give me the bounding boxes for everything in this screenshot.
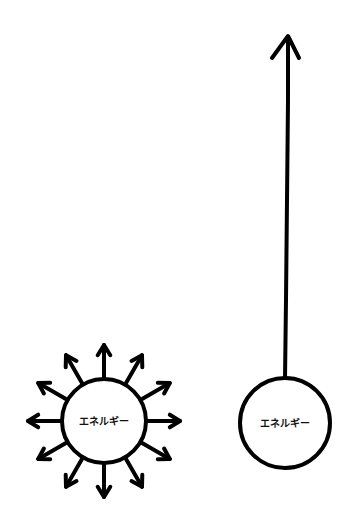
arrow-shaft bbox=[285, 38, 288, 379]
arrow-head-icon bbox=[272, 36, 299, 58]
directed-energy-arrow bbox=[272, 36, 299, 379]
right-energy-label: エネルギー bbox=[260, 417, 310, 429]
energy-diagram: エネルギー エネルギー bbox=[0, 0, 353, 516]
left-energy-label: エネルギー bbox=[79, 415, 129, 427]
